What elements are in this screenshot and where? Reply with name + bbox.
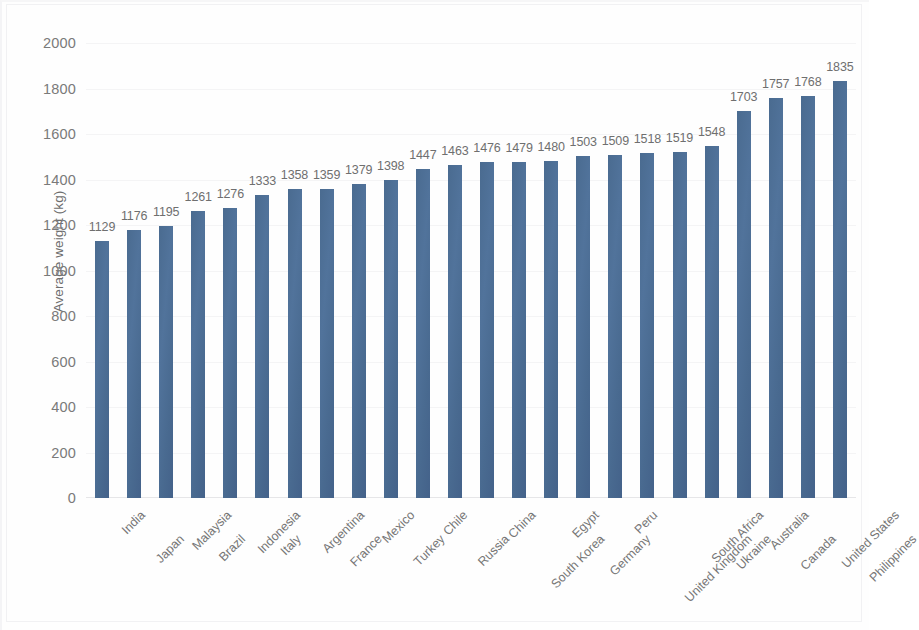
- x-axis-category-label: China: [506, 508, 539, 541]
- y-axis-tick-label: 2000: [30, 35, 76, 51]
- bar[interactable]: [608, 155, 622, 498]
- y-axis-tick-label: 1600: [30, 126, 76, 142]
- x-axis-category-label: Turkey: [411, 532, 448, 569]
- x-axis-category-label: Japan: [153, 532, 187, 566]
- x-axis-category-label: Peru: [632, 508, 661, 537]
- bar[interactable]: [544, 161, 558, 498]
- bar-value-label: 1548: [689, 125, 735, 139]
- bar-value-label: 1703: [721, 90, 767, 104]
- bar[interactable]: [320, 189, 334, 498]
- bar[interactable]: [223, 208, 237, 498]
- x-axis-category-label: Brazil: [216, 532, 248, 564]
- x-axis-category-label: India: [119, 508, 148, 537]
- bar[interactable]: [737, 111, 751, 498]
- bar[interactable]: [512, 162, 526, 498]
- bar-value-label: 1195: [143, 205, 189, 219]
- bar-value-label: 1768: [785, 75, 831, 89]
- bar-value-label: 1276: [207, 187, 253, 201]
- bar[interactable]: [384, 180, 398, 498]
- bar[interactable]: [640, 153, 654, 498]
- x-axis-category-label: South Korea: [548, 532, 607, 591]
- bar[interactable]: [255, 195, 269, 498]
- bar[interactable]: [801, 96, 815, 498]
- plot-area: 1129117611951261127613331358135913791398…: [86, 43, 856, 498]
- x-axis-labels: IndiaJapanMalaysiaBrazilIndonesiaItalyAr…: [86, 498, 856, 628]
- gridline: [86, 43, 856, 44]
- x-axis-category-label: Germany: [607, 532, 653, 578]
- bar[interactable]: [448, 165, 462, 498]
- y-axis-tick-label: 800: [30, 308, 76, 324]
- bar[interactable]: [705, 146, 719, 498]
- bar[interactable]: [576, 156, 590, 498]
- bar[interactable]: [191, 211, 205, 498]
- bar[interactable]: [416, 169, 430, 498]
- y-axis-tick-label: 200: [30, 445, 76, 461]
- y-axis-tick-label: 1200: [30, 217, 76, 233]
- x-axis-category-label: Canada: [798, 532, 839, 573]
- bar[interactable]: [833, 81, 847, 498]
- bar[interactable]: [159, 226, 173, 498]
- y-axis-ticks: 2000180016001400120010008006004002000: [30, 0, 76, 630]
- y-axis-tick-label: 400: [30, 399, 76, 415]
- y-axis-tick-label: 1000: [30, 263, 76, 279]
- bar[interactable]: [673, 152, 687, 498]
- bar[interactable]: [352, 184, 366, 498]
- y-axis-tick-label: 1800: [30, 81, 76, 97]
- y-axis-tick-label: 600: [30, 354, 76, 370]
- bar[interactable]: [288, 189, 302, 498]
- x-axis-category-label: France: [347, 532, 384, 569]
- y-axis-tick-label: 0: [30, 490, 76, 506]
- y-axis-tick-label: 1400: [30, 172, 76, 188]
- bar-value-label: 1835: [817, 60, 863, 74]
- bar[interactable]: [95, 241, 109, 498]
- x-axis-category-label: Chile: [440, 508, 470, 538]
- x-axis-category-label: Mexico: [379, 508, 417, 546]
- bar[interactable]: [769, 98, 783, 498]
- x-axis-category-label: Australia: [767, 508, 811, 552]
- bar[interactable]: [127, 230, 141, 498]
- x-axis-category-label: Russia: [475, 532, 512, 569]
- bar[interactable]: [480, 162, 494, 498]
